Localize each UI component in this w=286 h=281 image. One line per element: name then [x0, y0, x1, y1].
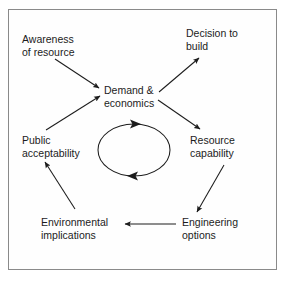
arrow-demand-to-decision [159, 58, 199, 92]
node-decision-to-build: Decision to build [186, 27, 238, 52]
arrow-awareness-to-demand [55, 59, 99, 88]
node-public-acceptability: Public acceptability [22, 134, 80, 159]
arrow-environmental-to-public [45, 162, 75, 209]
node-demand-economics: Demand & economics [104, 84, 154, 109]
node-resource-capability: Resource capability [190, 134, 235, 159]
cycle-diagram-figure: Awareness of resource Decision to build … [0, 0, 286, 281]
node-environmental-implications: Environmental implications [41, 216, 108, 241]
rotation-ellipse [98, 119, 170, 180]
node-engineering-options: Engineering options [182, 216, 238, 241]
arrow-resource-to-engineering [197, 165, 224, 212]
arrow-public-to-demand [46, 96, 100, 130]
node-awareness-of-resource: Awareness of resource [22, 33, 75, 58]
arrow-demand-to-resource [158, 100, 200, 129]
